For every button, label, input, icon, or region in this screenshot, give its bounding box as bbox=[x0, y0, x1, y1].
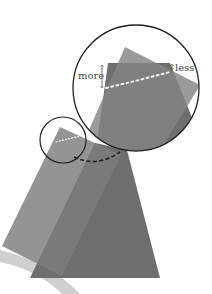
more-label: more bbox=[78, 70, 104, 81]
less-label: less bbox=[175, 62, 194, 73]
magnification-diagram: more less bbox=[0, 0, 212, 294]
